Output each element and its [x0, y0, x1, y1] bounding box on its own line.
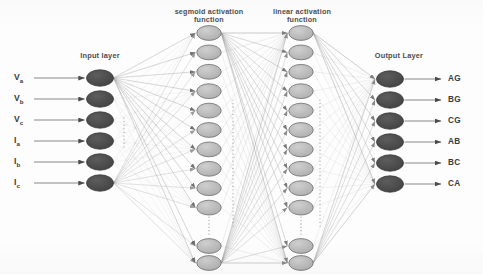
input-node [87, 175, 114, 191]
input-label-subscript: c [16, 182, 19, 189]
hidden2-node [289, 45, 313, 60]
hidden1-node [197, 200, 221, 215]
hidden1-title-line2: function [194, 15, 224, 24]
input-label-subscript: c [20, 119, 23, 126]
hidden1-node [197, 256, 221, 271]
input-label-vb: Vb [14, 93, 24, 105]
hidden1-node [197, 123, 221, 138]
hidden1-node [197, 45, 221, 60]
output-arrows [405, 79, 442, 184]
hidden2-node [289, 239, 313, 254]
input-node [87, 133, 114, 149]
hidden1-node [197, 142, 221, 157]
input-label-vc: Vc [14, 114, 23, 126]
hidden2-node [289, 142, 313, 157]
input-label-subscript: a [20, 77, 23, 84]
hidden1-node [197, 84, 221, 99]
hidden1-node [197, 64, 221, 79]
output-node [377, 155, 404, 171]
edges-hidden1-to-hidden2 [221, 33, 287, 263]
input-node [87, 91, 114, 107]
input-node [87, 154, 114, 170]
input-arrows [34, 78, 85, 183]
hidden-layer-1-title: segmoid activation function [156, 8, 262, 24]
hidden-layer-2-title: linear activation function [252, 8, 352, 24]
output-label-bg: BG [448, 95, 461, 104]
output-label-ag: AG [448, 74, 461, 83]
hidden2-node [289, 103, 313, 118]
input-label-ic: Ic [14, 177, 20, 189]
hidden2-node [289, 161, 313, 176]
hidden2-node [289, 200, 313, 215]
network-graph [0, 0, 483, 274]
input-label-ia: Ia [14, 135, 20, 147]
output-label-bc: BC [448, 158, 461, 167]
input-label-subscript: b [16, 161, 20, 168]
hidden2-node [289, 64, 313, 79]
hidden2-node [289, 26, 313, 41]
hidden1-node [197, 161, 221, 176]
input-node [87, 112, 114, 128]
hidden1-node [197, 103, 221, 118]
diagram-canvas: Input layer segmoid activation function … [0, 0, 483, 274]
input-label-va: Va [14, 72, 23, 84]
output-node [377, 71, 404, 87]
input-layer-title: Input layer [64, 52, 136, 60]
hidden2-node [289, 123, 313, 138]
hidden2-node [289, 84, 313, 99]
output-label-cg: CG [448, 116, 461, 125]
output-node [377, 134, 404, 150]
output-node [377, 92, 404, 108]
edges-input-to-hidden1 [114, 33, 196, 263]
input-node [87, 70, 114, 86]
output-layer-title: Output Layer [362, 52, 436, 60]
output-node [377, 176, 404, 192]
input-layer-nodes [87, 70, 114, 191]
hidden1-node [197, 181, 221, 196]
hidden2-node [289, 181, 313, 196]
output-node [377, 113, 404, 129]
hidden1-node [197, 239, 221, 254]
input-label-subscript: b [20, 98, 24, 105]
input-label-subscript: a [16, 140, 19, 147]
input-label-ib: Ib [14, 156, 20, 168]
edges-hidden2-to-output [313, 33, 375, 263]
output-label-ca: CA [448, 179, 461, 188]
output-label-ab: AB [448, 137, 461, 146]
hidden2-node [289, 256, 313, 271]
hidden1-node [197, 26, 221, 41]
output-layer-nodes [377, 71, 404, 192]
hidden2-title-line2: function [287, 15, 317, 24]
